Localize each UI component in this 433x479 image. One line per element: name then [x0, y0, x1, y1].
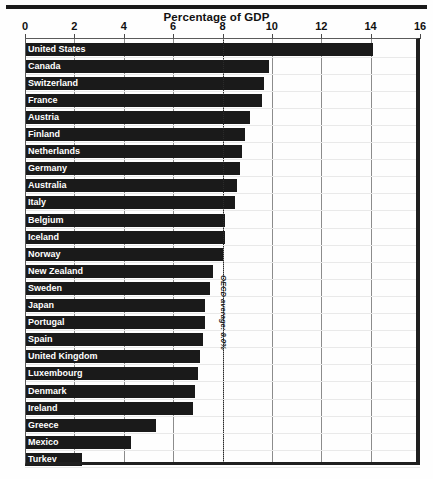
chart-figure: Percentage of GDP 0246810121416 United S…	[0, 0, 433, 479]
plot-frame	[25, 38, 420, 465]
x-tick-label: 2	[71, 20, 77, 32]
top-rule	[6, 5, 427, 9]
x-tick-label: 0	[22, 20, 28, 32]
plot-area: United StatesCanadaSwitzerlandFranceAust…	[25, 38, 420, 465]
x-tick-label: 10	[266, 20, 278, 32]
x-tick-label: 16	[414, 20, 426, 32]
x-tick-mark	[420, 34, 421, 39]
x-tick-label: 8	[219, 20, 225, 32]
x-tick-label: 12	[315, 20, 327, 32]
row-separator	[25, 467, 420, 468]
x-tick-label: 14	[365, 20, 377, 32]
x-tick-label: 6	[170, 20, 176, 32]
x-tick-label: 4	[121, 20, 127, 32]
